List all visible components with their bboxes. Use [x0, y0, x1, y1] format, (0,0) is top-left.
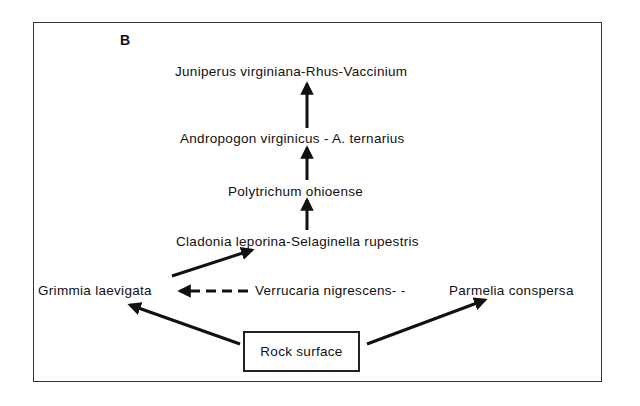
arrow-rock-parmelia	[367, 300, 485, 344]
arrow-grimmia-cladonia	[172, 250, 252, 276]
arrows-layer	[0, 0, 640, 406]
arrow-rock-grimmia	[130, 305, 240, 344]
